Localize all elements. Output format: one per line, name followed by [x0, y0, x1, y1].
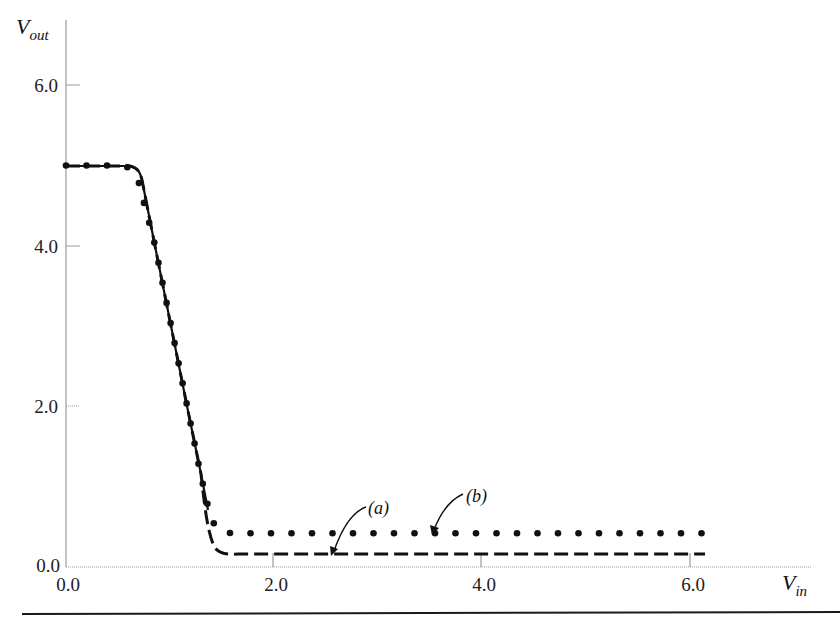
curve-b-dot — [637, 530, 644, 537]
x-tick-label-6: 6.0 — [681, 574, 705, 595]
curve-b-dot — [493, 530, 500, 537]
transfer-characteristic-chart: 6.0 4.0 2.0 0.0 0.0 2.0 4.0 6.0 Vout Vin… — [0, 0, 840, 627]
curve-b-dot — [211, 520, 218, 527]
curve-b-dot — [411, 530, 418, 537]
x-tick-label-4: 4.0 — [472, 574, 496, 595]
curve-b-dot — [596, 530, 603, 537]
curve-b-dotted — [63, 162, 705, 536]
annotation-b: (b) — [430, 486, 487, 535]
curve-b-dot — [473, 530, 480, 537]
curve-b-dot — [370, 530, 377, 537]
curve-b-dot — [657, 530, 664, 537]
y-axis-title: Vout — [16, 14, 49, 43]
curve-b-dot — [268, 530, 275, 537]
svg-text:(b): (b) — [466, 486, 487, 507]
curve-b-dot — [247, 530, 254, 537]
curve-b-dot — [514, 530, 521, 537]
curve-b-dot — [329, 530, 336, 537]
bottom-rule — [22, 612, 840, 614]
curve-b-dot — [309, 530, 316, 537]
curve-b-dot — [350, 530, 357, 537]
curve-overlap-segment — [66, 166, 208, 510]
curve-a-dashed — [66, 166, 705, 554]
curve-b-dot — [288, 530, 295, 537]
curve-b-dot — [391, 530, 398, 537]
y-tick-label-2: 2.0 — [34, 396, 58, 417]
curve-b-dot — [698, 530, 705, 537]
y-tick-label-4: 4.0 — [34, 236, 58, 257]
curve-b-dot — [678, 530, 685, 537]
curve-b-dot — [575, 530, 582, 537]
curve-b-dot — [452, 530, 459, 537]
annotation-a: (a) — [330, 498, 389, 556]
curve-b-dot — [555, 530, 562, 537]
curve-b-dot — [227, 530, 234, 537]
y-ticks — [66, 85, 80, 406]
x-tick-label-2: 2.0 — [264, 574, 288, 595]
curve-b-dot — [616, 530, 623, 537]
y-tick-label-0: 0.0 — [36, 555, 60, 576]
svg-text:(a): (a) — [368, 498, 389, 519]
curve-b-dot — [534, 530, 541, 537]
y-tick-label-6: 6.0 — [34, 75, 58, 96]
x-axis-title: Vin — [782, 570, 807, 599]
x-tick-labels: 0.0 2.0 4.0 6.0 — [56, 574, 705, 595]
y-tick-labels: 6.0 4.0 2.0 0.0 — [34, 75, 60, 576]
x-tick-label-0: 0.0 — [56, 574, 80, 595]
